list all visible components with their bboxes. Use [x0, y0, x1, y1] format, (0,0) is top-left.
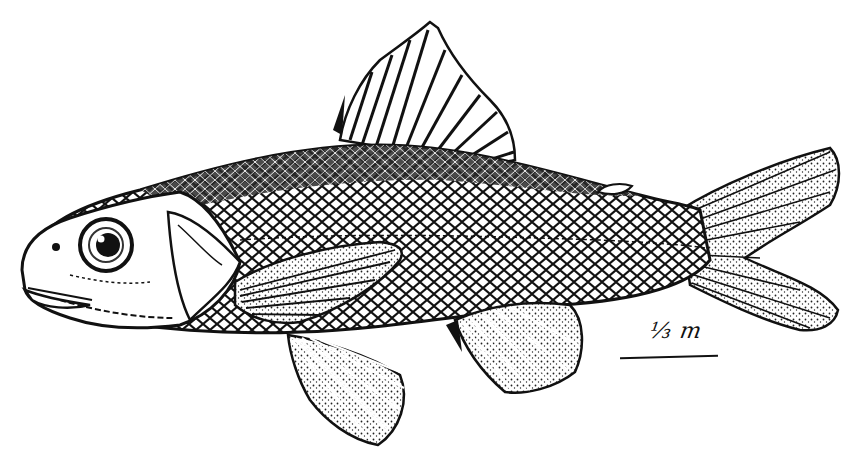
pelvic-fin: [288, 335, 404, 445]
eye: [80, 219, 132, 271]
fish-head: [22, 192, 240, 328]
scale-label: ⅓ m: [648, 318, 705, 343]
anal-fin: [446, 303, 582, 393]
fish-illustration: [0, 0, 861, 453]
